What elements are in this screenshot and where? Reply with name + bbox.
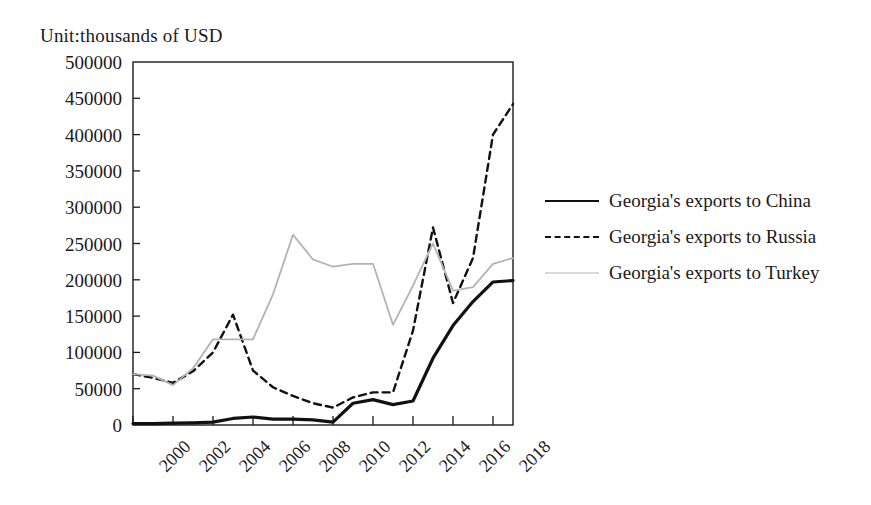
legend-item-china: Georgia's exports to China bbox=[545, 183, 865, 219]
x-axis-tick-label: 2010 bbox=[356, 437, 394, 475]
legend-label-china: Georgia's exports to China bbox=[609, 190, 811, 212]
x-axis-tick-label: 2002 bbox=[196, 437, 234, 475]
x-axis-tick-label: 2004 bbox=[236, 437, 274, 475]
x-axis-tick-label: 2008 bbox=[316, 437, 354, 475]
x-axis-tick-label: 2000 bbox=[156, 437, 194, 475]
x-axis-tick-label: 2018 bbox=[516, 437, 554, 475]
legend-label-turkey: Georgia's exports to Turkey bbox=[609, 262, 819, 284]
legend-item-russia: Georgia's exports to Russia bbox=[545, 219, 865, 255]
x-axis-tick-label: 2014 bbox=[436, 437, 474, 475]
x-axis-tick-label: 2012 bbox=[396, 437, 434, 475]
chart-legend: Georgia's exports to China Georgia's exp… bbox=[545, 183, 865, 291]
chart-figure: Unit:thousands of USD 050000100000150000… bbox=[0, 0, 871, 505]
x-axis-tick-label: 2016 bbox=[476, 437, 514, 475]
legend-key-russia-icon bbox=[545, 230, 599, 244]
legend-key-turkey-icon bbox=[545, 266, 599, 280]
legend-item-turkey: Georgia's exports to Turkey bbox=[545, 255, 865, 291]
legend-key-china-icon bbox=[545, 194, 599, 208]
legend-label-russia: Georgia's exports to Russia bbox=[609, 226, 816, 248]
x-axis-tick-label: 2006 bbox=[276, 437, 314, 475]
